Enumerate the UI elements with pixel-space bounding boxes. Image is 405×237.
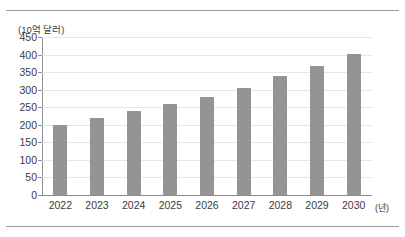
- bar: [127, 111, 141, 195]
- bar-slot: [335, 37, 372, 195]
- x-axis-unit-label: (년): [375, 201, 389, 214]
- bar-slot: [299, 37, 336, 195]
- y-axis-tick-label: 250: [19, 102, 37, 113]
- y-axis-tick-label: 50: [25, 172, 37, 183]
- x-axis-tick-label: 2029: [299, 199, 336, 211]
- y-axis-tick-label: 200: [19, 120, 37, 131]
- y-axis-tick-label: 300: [19, 84, 37, 95]
- x-axis-tick-label: 2027: [225, 199, 262, 211]
- y-axis-tick-label: 150: [19, 137, 37, 148]
- y-axis-tick-label: 350: [19, 67, 37, 78]
- bar: [273, 76, 287, 195]
- x-axis-tick-label: 2022: [42, 199, 79, 211]
- y-axis-tick-mark: [38, 195, 42, 196]
- chart-figure: (10억 달러) 050100150200250300350400450 202…: [0, 0, 405, 237]
- x-axis-tick-label: 2026: [189, 199, 226, 211]
- bar: [163, 104, 177, 195]
- bar: [237, 88, 251, 195]
- bar-slot: [152, 37, 189, 195]
- x-axis-tick-labels: 202220232024202520262027202820292030: [42, 199, 372, 217]
- bar-slot: [79, 37, 116, 195]
- x-axis-line: [42, 195, 372, 196]
- bar-slot: [42, 37, 79, 195]
- bottom-divider-rule: [6, 226, 399, 227]
- bar-slot: [189, 37, 226, 195]
- plot-area: [42, 37, 372, 195]
- bar: [347, 54, 361, 195]
- bar-series: [42, 37, 372, 195]
- bar: [200, 97, 214, 195]
- x-axis-tick-label: 2025: [152, 199, 189, 211]
- x-axis-tick-label: 2030: [335, 199, 372, 211]
- bar-slot: [115, 37, 152, 195]
- bar: [310, 66, 324, 195]
- top-divider-rule: [6, 10, 399, 11]
- y-axis-tick-labels: 050100150200250300350400450: [10, 37, 37, 195]
- y-axis-tick-label: 400: [19, 49, 37, 60]
- bar: [53, 125, 67, 195]
- bar-slot: [262, 37, 299, 195]
- x-axis-tick-label: 2024: [115, 199, 152, 211]
- x-axis-tick-label: 2023: [79, 199, 116, 211]
- bar: [90, 118, 104, 195]
- x-axis-tick-label: 2028: [262, 199, 299, 211]
- y-axis-tick-label: 0: [31, 190, 37, 201]
- bar-slot: [225, 37, 262, 195]
- y-axis-tick-label: 100: [19, 155, 37, 166]
- y-axis-tick-label: 450: [19, 32, 37, 43]
